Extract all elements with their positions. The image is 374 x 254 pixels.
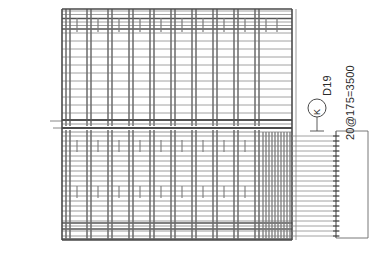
lower-horizontal-stirrups <box>62 136 292 236</box>
callout-label-text: D19 <box>322 75 333 96</box>
reinforcement-drawing-canvas <box>0 0 374 254</box>
dimension-text: 20@175=3500 <box>345 65 356 140</box>
callout-mark-text: K <box>313 109 322 115</box>
dimension-extension-ticks <box>292 136 340 236</box>
